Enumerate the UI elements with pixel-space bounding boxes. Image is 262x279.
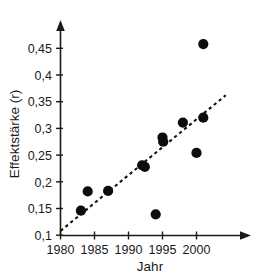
data-point [158, 137, 168, 147]
x-axis-arrowhead [240, 231, 251, 240]
data-point [151, 209, 161, 219]
x-tick-labels: 1980 1985 1990 1995 2000 [47, 243, 211, 257]
chart-figure: 0,45 0,4 0,35 0,3 0,25 0,2 0,15 0,1 1980… [0, 0, 262, 279]
y-axis-arrowhead [56, 20, 65, 31]
data-point [198, 113, 208, 123]
y-tick-label: 0,1 [35, 229, 52, 243]
x-tick-label: 1980 [47, 243, 75, 257]
y-tick-label: 0,4 [35, 69, 52, 83]
y-tick-label: 0,25 [28, 149, 52, 163]
data-point [103, 186, 113, 196]
data-point [191, 148, 201, 158]
data-point [76, 206, 86, 216]
x-axis [61, 231, 252, 240]
x-tick-label: 2000 [183, 243, 211, 257]
data-point [140, 162, 150, 172]
y-tick-label: 0,45 [28, 42, 52, 56]
y-tick-label: 0,35 [28, 95, 52, 109]
y-tick-label: 0,15 [28, 202, 52, 216]
x-tick-label: 1995 [149, 243, 177, 257]
y-tick-label: 0,2 [35, 176, 52, 190]
x-tick-label: 1990 [115, 243, 143, 257]
data-point [178, 117, 188, 127]
y-tick-labels: 0,45 0,4 0,35 0,3 0,25 0,2 0,15 0,1 [28, 42, 52, 243]
x-tick-label: 1985 [81, 243, 109, 257]
y-tick-marks [56, 48, 63, 235]
data-point [83, 186, 93, 196]
y-tick-label: 0,3 [35, 122, 52, 136]
data-point-group [76, 39, 209, 220]
x-axis-title: Jahr [137, 259, 164, 274]
scatter-plot-canvas: 0,45 0,4 0,35 0,3 0,25 0,2 0,15 0,1 1980… [0, 0, 262, 279]
data-point [198, 39, 208, 49]
y-axis-title: Effektstärke (r) [7, 90, 22, 178]
